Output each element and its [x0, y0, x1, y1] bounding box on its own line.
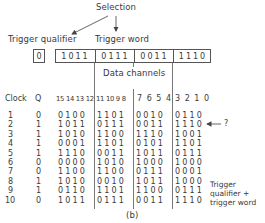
cell-g4: 0111: [175, 149, 204, 158]
header-channels-3-0: 3 2 1 0: [175, 94, 210, 103]
cell-g1: 0100: [58, 111, 87, 120]
cell-g3: 0101: [136, 139, 165, 148]
cell-q: 1: [36, 120, 41, 129]
annotation-line-1: Trigger: [210, 180, 236, 189]
cell-g2: 1101: [97, 111, 126, 120]
selection-label: Selection: [96, 2, 136, 12]
header-channels-15-12: 15 14 13 12: [56, 95, 94, 103]
trigger-word-nibble: 0011: [134, 50, 174, 62]
cell-g1: 1010: [58, 177, 87, 186]
cell-clock: 2: [8, 120, 13, 129]
channel-divider-tick: [133, 63, 134, 67]
trigger-word-label: Trigger word: [95, 34, 149, 44]
cell-g3: 0011: [136, 120, 165, 129]
cell-g1: 1011: [58, 120, 87, 129]
cell-g3: 1000: [136, 158, 165, 167]
trigger-word-nibble: 1110: [173, 50, 212, 62]
cell-g3: 0111: [136, 167, 165, 176]
cell-g2: 1100: [97, 130, 126, 139]
trigger-qualifier-label: Trigger qualifier: [8, 34, 77, 44]
data-channels-label: Data channels: [103, 68, 165, 78]
cell-g4: 1000: [175, 158, 204, 167]
cell-clock: 9: [8, 186, 13, 195]
cell-q: 1: [36, 177, 41, 186]
question-mark: ?: [224, 119, 228, 128]
cell-clock: 7: [8, 167, 13, 176]
cell-g1: 1010: [58, 130, 87, 139]
trigger-word-nibble: 1011: [56, 50, 95, 62]
cell-g4: 1110: [175, 196, 204, 205]
cell-g3: 1110: [136, 130, 165, 139]
cell-g4: 1101: [175, 139, 204, 148]
cell-g2: 0011: [97, 149, 126, 158]
cell-g1: 1100: [58, 167, 87, 176]
trigger-word-box: 1011 0111 0011 1110: [55, 49, 211, 63]
cell-clock: 4: [8, 139, 13, 148]
cell-q: 1: [36, 130, 41, 139]
cell-g2: 1101: [97, 186, 126, 195]
cell-clock: 8: [8, 177, 13, 186]
cell-g2: 1101: [97, 139, 126, 148]
cell-g3: 1011: [136, 177, 165, 186]
cell-g4: 1001: [175, 130, 204, 139]
cell-clock: 5: [8, 149, 13, 158]
cell-g1: 0001: [58, 139, 87, 148]
cell-g4: 1110: [175, 120, 204, 129]
cell-g3: 0010: [136, 111, 165, 120]
cell-g2: 0111: [97, 120, 126, 129]
cell-g1: 0110: [58, 186, 87, 195]
trigger-qualifier-box: 0: [33, 49, 45, 63]
cell-g4: 0111: [175, 186, 204, 195]
cell-g4: 1000: [175, 177, 204, 186]
cell-clock: 10: [5, 196, 15, 205]
cell-clock: 1: [8, 111, 13, 120]
cell-g2: 0010: [97, 177, 126, 186]
cell-q: 1: [36, 186, 41, 195]
figure-label: (b): [126, 210, 138, 220]
cell-g1: 1011: [58, 196, 87, 205]
cell-q: 0: [36, 158, 41, 167]
cell-g2: 1100: [97, 167, 126, 176]
cell-g4: 0110: [175, 111, 204, 120]
trigger-word-nibble: 0111: [95, 50, 135, 62]
cell-g3: 1011: [136, 149, 165, 158]
trigger-qualifier-value: 0: [34, 50, 44, 62]
annotation-line-3: trigger word: [210, 198, 256, 207]
cell-q: 0: [36, 111, 41, 120]
cell-q: 1: [36, 139, 41, 148]
cell-g4: 0001: [175, 167, 204, 176]
header-channels-11-8: 11 10 9 8: [96, 95, 126, 103]
cell-q: 1: [36, 149, 41, 158]
table-header: Clock Q 15 14 13 12 11 10 9 8 7 6 5 4 3 …: [0, 94, 265, 104]
cell-q: 0: [36, 196, 41, 205]
cell-g3: 0011: [136, 196, 165, 205]
cell-q: 0: [36, 167, 41, 176]
header-q: Q: [35, 94, 41, 103]
cell-g2: 0111: [97, 196, 126, 205]
cell-g1: 1110: [58, 149, 87, 158]
cell-g1: 0000: [58, 158, 87, 167]
cell-g3: 1100: [136, 186, 165, 195]
cell-clock: 6: [8, 158, 13, 167]
cell-g2: 1010: [97, 158, 126, 167]
header-clock: Clock: [5, 94, 27, 103]
annotation-line-2: qualifier +: [210, 189, 249, 198]
header-channels-7-4: 7 6 5 4: [137, 94, 172, 103]
cell-clock: 3: [8, 130, 13, 139]
